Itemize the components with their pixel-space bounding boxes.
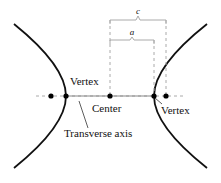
label-c: c <box>136 6 140 16</box>
left-branch <box>14 24 66 168</box>
label-transverse-axis: Transverse axis <box>64 127 132 139</box>
label-center: Center <box>92 102 122 114</box>
vertex-right-point <box>151 93 156 98</box>
brace-a <box>110 37 154 44</box>
brace-c <box>110 16 166 24</box>
label-a: a <box>130 27 135 37</box>
focus-left-point <box>48 93 53 98</box>
label-vertex-left: Vertex <box>70 75 99 87</box>
transverse-axis-leader <box>79 101 88 128</box>
label-vertex-right: Vertex <box>161 104 190 116</box>
hyperbola-diagram: c a Vertex Center Vertex Transverse axis <box>0 0 221 183</box>
focus-right-point <box>163 93 168 98</box>
center-point <box>107 93 112 98</box>
vertex-left-point <box>63 93 68 98</box>
